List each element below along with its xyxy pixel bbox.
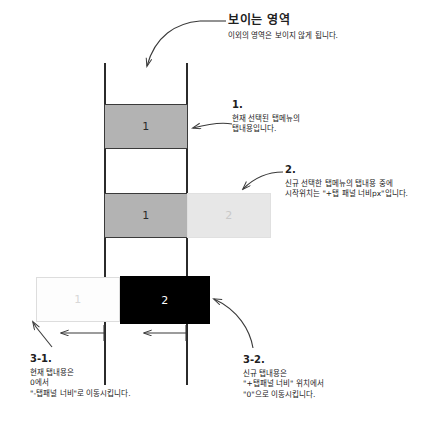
arrow-viewport-title xyxy=(147,21,200,66)
box-label: 2 xyxy=(225,209,233,222)
note-step-3-2-line-3: "0"으로 이동시킵니다. xyxy=(243,390,324,401)
note-step-3-2-number: 3-2. xyxy=(243,353,324,368)
box-label: 1 xyxy=(74,293,82,306)
box-label: 2 xyxy=(161,294,169,307)
note-step-3-1-number: 3-1. xyxy=(30,352,131,367)
tab-panel-new-offscreen: 2 xyxy=(187,193,271,238)
note-step-2-line-2: 시작위치는 "+탭 패널 너비px"입니다. xyxy=(285,189,408,200)
note-step-3-2: 3-2. 신규 탭내용은 "+탭패널 너비" 위치에서 "0"으로 이동시킵니다… xyxy=(243,353,324,401)
note-step-3-1-line-2: 0에서 xyxy=(30,378,131,389)
note-step-2-line-1: 신규 선택한 탭메뉴의 탭내용 중에 xyxy=(285,179,408,190)
note-step-3-2-line-2: "+탭패널 너비" 위치에서 xyxy=(243,379,324,390)
note-viewport-title: 보이는 영역 이외의 영역은 보이지 않게 됩니다. xyxy=(228,12,338,42)
arrow-note-2 xyxy=(243,172,283,189)
tab-panel-new-arrived: 2 xyxy=(120,276,210,324)
note-step-3-1-line-1: 현재 탭내용은 xyxy=(30,368,131,379)
note-step-1-line-1: 현재 선택된 탭메뉴의 xyxy=(232,114,300,125)
note-step-3-2-line-1: 신규 탭내용은 xyxy=(243,369,324,380)
note-step-3-1-line-3: "-탭패널 너비"로 이동시킵니다. xyxy=(30,389,131,400)
arrow-note-1 xyxy=(193,123,232,128)
tab-panel-current-middle: 1 xyxy=(104,193,188,238)
tab-panel-current-moved-out: 1 xyxy=(36,277,120,322)
tab-panel-current-top: 1 xyxy=(104,104,188,149)
note-step-1-line-2: 탭내용입니다. xyxy=(232,124,300,135)
box-label: 1 xyxy=(142,120,150,133)
arrow-note-3-2 xyxy=(214,299,253,348)
note-step-1-number: 1. xyxy=(232,98,300,113)
note-step-3-1: 3-1. 현재 탭내용은 0에서 "-탭패널 너비"로 이동시킵니다. xyxy=(30,352,131,400)
box-label: 1 xyxy=(142,209,150,222)
viewport-title-description: 이외의 영역은 보이지 않게 됩니다. xyxy=(228,31,338,42)
leader-note-3-1 xyxy=(36,327,52,347)
note-step-2: 2. 신규 선택한 탭메뉴의 탭내용 중에 시작위치는 "+탭 패널 너비px"… xyxy=(285,163,408,200)
viewport-title-heading: 보이는 영역 xyxy=(228,12,338,29)
diagram-canvas: 1 1 2 1 2 xyxy=(0,0,433,432)
arrow-note-3-1-target xyxy=(33,322,36,327)
note-step-1: 1. 현재 선택된 탭메뉴의 탭내용입니다. xyxy=(232,98,300,135)
note-step-2-number: 2. xyxy=(285,163,408,178)
